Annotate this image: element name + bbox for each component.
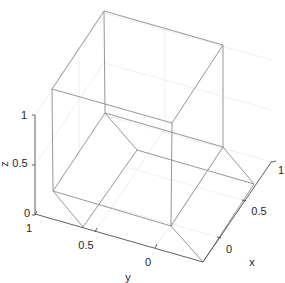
z-tick-1: 1 <box>21 109 27 121</box>
y-axis: 1 0.5 0 y <box>26 211 203 283</box>
z-axis: 1 0.5 0 z <box>0 109 35 219</box>
cube-wireframe <box>52 11 254 262</box>
3d-cube-plot: 1 0.5 0 z 1 0.5 0 y 1 0.5 0 x <box>0 0 285 283</box>
y-tick-0.5: 0.5 <box>78 239 93 251</box>
x-tick-1: 1 <box>278 164 284 176</box>
x-tick-0.5: 0.5 <box>251 205 266 217</box>
z-axis-label: z <box>0 161 10 167</box>
y-axis-label: y <box>125 271 131 283</box>
z-tick-0.5: 0.5 <box>12 157 27 169</box>
y-tick-1: 1 <box>26 222 32 234</box>
x-axis-label: x <box>249 256 255 268</box>
x-tick-0: 0 <box>226 243 232 255</box>
y-tick-0: 0 <box>145 256 151 268</box>
x-axis: 1 0.5 0 x <box>203 161 284 268</box>
z-tick-0: 0 <box>24 207 30 219</box>
